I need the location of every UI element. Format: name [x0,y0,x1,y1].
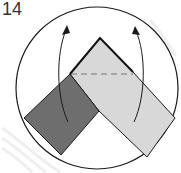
arrowhead-icon [62,25,70,35]
origami-diagram [0,0,181,173]
arrowhead-icon [132,26,140,35]
